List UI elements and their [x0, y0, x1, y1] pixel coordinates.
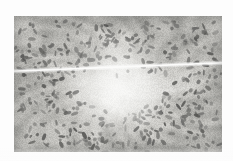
screenshot-root: Histology micrograph Grayscale tissue se…: [0, 0, 233, 161]
micrograph-plate: [14, 16, 222, 152]
micrograph-canvas: [14, 16, 222, 152]
